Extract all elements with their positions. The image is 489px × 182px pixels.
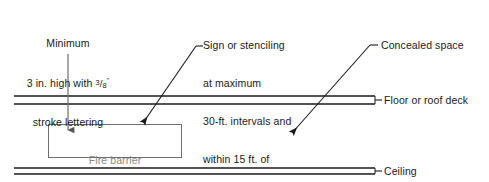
floor-or-roof-deck-label: Floor or roof deck: [384, 94, 468, 107]
sign-stenciling-line-1: Sign or stenciling: [203, 39, 333, 52]
minimum-lettering-line-2-prefix: 3 in. high with: [27, 77, 96, 89]
minimum-lettering-line-2: 3 in. high with 3/8": [4, 75, 132, 90]
sign-stenciling-line-2: at maximum: [203, 77, 333, 90]
sign-stenciling-note: Sign or stenciling at maximum 30-ft. int…: [203, 14, 333, 182]
three-eighths-fraction: 3/8: [95, 77, 106, 91]
sign-stenciling-leader: [143, 46, 196, 123]
fire-barrier-box-line-1: Fire barrier: [48, 154, 182, 167]
concealed-space-label: Concealed space: [381, 39, 464, 52]
minimum-lettering-line-1: Minimum: [4, 37, 132, 50]
fire-barrier-section-diagram: Minimum 3 in. high with 3/8" stroke lett…: [0, 0, 489, 182]
sign-stenciling-line-3: 30-ft. intervals and: [203, 115, 333, 128]
fire-barrier-box-text: Fire barrier Protect all openings: [48, 129, 182, 182]
ceiling-label: Ceiling: [384, 165, 417, 178]
fraction-denominator: 8: [102, 81, 106, 90]
inch-mark: ": [107, 77, 110, 84]
minimum-lettering-line-3: stroke lettering: [4, 116, 132, 129]
sign-stenciling-line-4: within 15 ft. of: [203, 153, 333, 166]
